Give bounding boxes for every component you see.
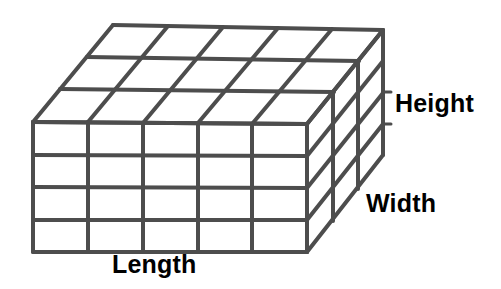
top-face-grid bbox=[33, 25, 383, 124]
top-length-line-back bbox=[113, 25, 383, 30]
front-horizontal-line-top bbox=[33, 122, 307, 124]
height-label: Height bbox=[395, 89, 474, 118]
front-face-grid bbox=[33, 122, 307, 252]
length-label: Length bbox=[112, 250, 197, 279]
diagram-canvas: Height Width Length bbox=[0, 0, 501, 289]
right-face-grid bbox=[307, 30, 383, 252]
top-length-line-2 bbox=[87, 57, 359, 61]
rectangular-prism-figure bbox=[0, 0, 501, 289]
width-label: Width bbox=[366, 189, 436, 218]
front-horizontal-line-1 bbox=[33, 155, 307, 156]
top-length-line-1 bbox=[60, 89, 334, 92]
front-horizontal-line-2 bbox=[33, 187, 307, 188]
